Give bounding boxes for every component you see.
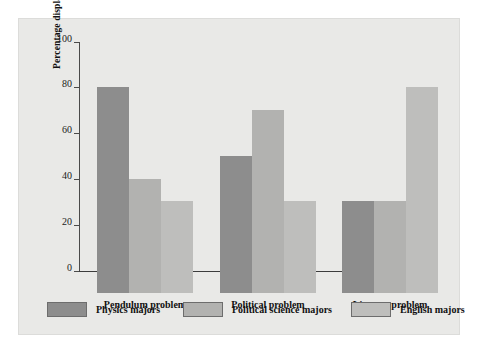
y-tick-label-100: 100	[57, 34, 72, 44]
y-tick-label-0: 0	[67, 263, 72, 273]
legend-swatch-icon	[183, 302, 223, 317]
bar-fill	[220, 156, 252, 293]
bar-fill	[406, 87, 438, 293]
figure-panel: Percentage displaying formal thought 100…	[18, 18, 460, 335]
plot-area: 100 80 60 40 20 0 90 50	[79, 42, 424, 294]
bar-group-political: 60 80 40 Political problem	[220, 63, 316, 293]
bar-fill	[342, 201, 374, 293]
legend-item-english[interactable]: English majors	[351, 298, 465, 320]
y-tick-label-20: 20	[62, 217, 72, 227]
legend-swatch-icon	[47, 302, 87, 317]
bar-fill	[97, 87, 129, 293]
legend-swatch-icon	[351, 302, 391, 317]
y-axis-line	[79, 42, 80, 272]
bar-group-literary: 40 40 90 Literary problem	[342, 63, 438, 293]
legend-item-physics[interactable]: Physics majors	[47, 298, 160, 320]
y-tick-label-80: 80	[62, 79, 72, 89]
bar-fill	[129, 179, 161, 294]
y-tick-label-40: 40	[62, 171, 72, 181]
bar-fill	[161, 201, 193, 293]
y-tick-label-60: 60	[62, 125, 72, 135]
legend-label: Physics majors	[96, 304, 160, 315]
legend-label: Political science majors	[232, 304, 332, 315]
bar-fill	[374, 201, 406, 293]
bar-fill	[284, 201, 316, 293]
bar-group-pendulum: 90 50 40 Pendulum problem	[97, 63, 193, 293]
chart-legend: Physics majors Political science majors …	[33, 298, 445, 320]
bar-fill	[252, 110, 284, 293]
legend-item-polisci[interactable]: Political science majors	[183, 298, 332, 320]
legend-label: English majors	[400, 304, 465, 315]
